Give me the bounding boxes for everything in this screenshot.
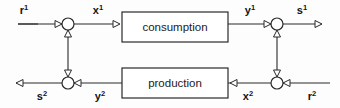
block-consumption[interactable]: consumption	[122, 12, 228, 42]
signal-r1-superscript: 1	[24, 3, 28, 12]
arrowhead-r1-into-sum	[55, 21, 62, 28]
arrowhead-s2-terminal	[16, 80, 23, 87]
arrowhead-y2-into-sum	[74, 80, 81, 87]
signal-label-x2: x2	[243, 89, 253, 102]
signal-label-r2: r2	[308, 89, 316, 102]
signal-label-y2: y2	[95, 89, 105, 102]
signal-x2-superscript: 2	[249, 89, 253, 98]
sum-junction-bottom-right[interactable]	[271, 77, 283, 89]
signal-r2-superscript: 2	[312, 89, 316, 98]
signal-label-r1: r1	[20, 3, 28, 16]
arrowhead-x1-into-consumption	[113, 21, 120, 28]
arrowhead-y1-into-sum	[264, 21, 271, 28]
signal-s2-superscript: 2	[43, 89, 47, 98]
block-diagram-canvas: consumption production r1 x1 y1 s1 s2 y2…	[0, 0, 340, 108]
block-production[interactable]: production	[122, 68, 228, 98]
sum-junction-top-right[interactable]	[271, 18, 283, 30]
arrowhead-left-vertical-into-bottom-sum	[65, 70, 72, 77]
arrowhead-r2-into-sum	[283, 80, 290, 87]
arrowhead-right-vertical-into-bottom-sum	[274, 70, 281, 77]
arrowhead-right-vertical-into-top-sum	[274, 30, 281, 37]
sum-junction-bottom-left[interactable]	[62, 77, 74, 89]
signal-y1-superscript: 1	[251, 3, 255, 12]
signal-label-x1: x1	[93, 3, 103, 16]
signal-x1-superscript: 1	[99, 3, 103, 12]
signal-label-s2: s2	[37, 89, 47, 102]
signal-y2-superscript: 2	[101, 89, 105, 98]
sum-junction-top-left[interactable]	[62, 18, 74, 30]
arrowhead-left-vertical-into-top-sum	[65, 30, 72, 37]
block-production-label: production	[148, 77, 202, 89]
block-diagram-svg: consumption production r1 x1 y1 s1 s2 y2…	[0, 0, 340, 108]
signal-s1-superscript: 1	[303, 3, 307, 12]
block-consumption-label: consumption	[142, 21, 207, 33]
signal-label-s1: s1	[297, 3, 307, 16]
arrowhead-x2-into-production	[230, 80, 237, 87]
signal-label-y1: y1	[245, 3, 255, 16]
arrowhead-s1-terminal	[315, 21, 322, 28]
